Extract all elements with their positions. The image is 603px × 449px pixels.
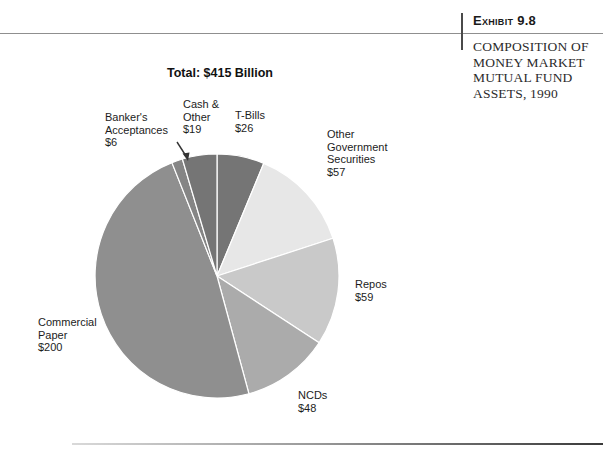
textbook-page: Exhibit 9.8 COMPOSITION OF MONEY MARKET … — [0, 0, 603, 449]
label-other-government-securities: Other Government Securities $57 — [327, 128, 388, 178]
label-cash-and-other: Cash & Other $19 — [183, 98, 219, 136]
label-bankers-acceptances: Banker's Acceptances $6 — [105, 111, 168, 149]
label-t-bills: T-Bills $26 — [235, 109, 265, 134]
label-repos: Repos $59 — [355, 278, 387, 303]
label-commercial-paper: Commercial Paper $200 — [38, 316, 97, 354]
pie-slices — [95, 154, 339, 398]
pie-chart — [0, 0, 603, 449]
label-ncds: NCDs $48 — [298, 389, 327, 414]
bottom-rule — [72, 443, 603, 445]
